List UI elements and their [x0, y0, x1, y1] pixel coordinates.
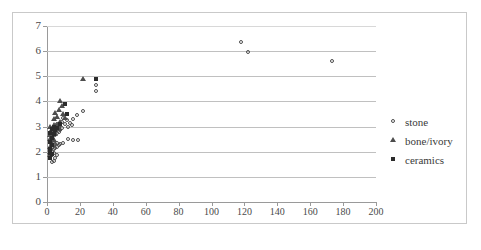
x-tick-label: 40	[98, 206, 128, 217]
x-tick-mark	[212, 202, 213, 206]
x-tick-label: 160	[295, 206, 325, 217]
chart-frame: 01234567 020406080100120140160180200 sto…	[12, 12, 467, 224]
legend-item-stone: stone	[391, 113, 471, 132]
x-tick-label: 80	[164, 206, 194, 217]
x-tick-mark	[80, 202, 81, 206]
legend-label-bone-ivory: bone/ivory	[405, 132, 453, 151]
data-point-stone	[50, 160, 54, 164]
legend-item-ceramics: ceramics	[391, 151, 471, 170]
legend-label-ceramics: ceramics	[405, 151, 444, 170]
y-tick-label: 4	[13, 95, 41, 106]
ceramics-marker-icon	[391, 157, 395, 161]
data-point-bone	[51, 116, 57, 121]
data-point-ceramics	[50, 152, 54, 156]
y-tick-label: 5	[13, 70, 41, 81]
data-point-stone	[75, 113, 79, 117]
y-tick-label: 1	[13, 171, 41, 182]
gridline	[47, 101, 376, 102]
gridline	[47, 127, 376, 128]
data-point-ceramics	[63, 102, 67, 106]
data-point-ceramics	[48, 140, 52, 144]
gridline	[47, 177, 376, 178]
data-point-stone	[330, 59, 334, 63]
x-tick-label: 140	[262, 206, 292, 217]
x-tick-label: 120	[229, 206, 259, 217]
stone-marker-icon	[391, 119, 395, 123]
y-tick-mark	[43, 51, 47, 52]
bone-ivory-marker-icon	[390, 137, 396, 142]
x-tick-mark	[113, 202, 114, 206]
data-point-ceramics	[94, 77, 98, 81]
chart-legend: stone bone/ivory ceramics	[391, 113, 471, 170]
gridline	[47, 26, 376, 27]
y-tick-mark	[43, 26, 47, 27]
x-tick-label: 0	[32, 206, 62, 217]
x-tick-label: 200	[361, 206, 391, 217]
legend-item-bone-ivory: bone/ivory	[391, 132, 471, 151]
x-tick-mark	[244, 202, 245, 206]
y-tick-label: 6	[13, 45, 41, 56]
data-point-ceramics	[48, 131, 52, 135]
gridline	[47, 152, 376, 153]
y-tick-label: 7	[13, 20, 41, 31]
y-tick-mark	[43, 101, 47, 102]
x-tick-mark	[343, 202, 344, 206]
x-tick-mark	[376, 202, 377, 206]
data-point-ceramics	[48, 156, 52, 160]
x-tick-mark	[310, 202, 311, 206]
data-point-ceramics	[65, 112, 69, 116]
y-tick-label: 3	[13, 121, 41, 132]
y-tick-label: 2	[13, 146, 41, 157]
x-tick-mark	[47, 202, 48, 206]
x-tick-mark	[277, 202, 278, 206]
y-tick-mark	[43, 76, 47, 77]
x-tick-mark	[179, 202, 180, 206]
gridline	[47, 51, 376, 52]
legend-label-stone: stone	[405, 113, 428, 132]
data-point-ceramics	[52, 125, 56, 129]
data-point-bone	[80, 76, 86, 81]
plot-area	[47, 26, 376, 202]
x-tick-label: 100	[197, 206, 227, 217]
x-tick-mark	[146, 202, 147, 206]
x-tick-label: 60	[131, 206, 161, 217]
x-tick-label: 20	[65, 206, 95, 217]
x-tick-label: 180	[328, 206, 358, 217]
y-tick-mark	[43, 177, 47, 178]
